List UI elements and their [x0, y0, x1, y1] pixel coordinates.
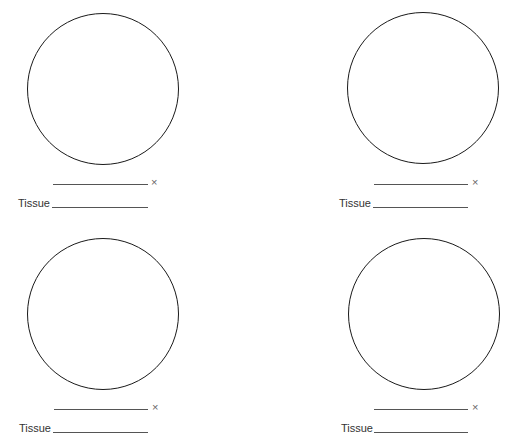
times-symbol: ×	[151, 177, 157, 188]
tissue-name-field[interactable]	[374, 432, 468, 433]
field-of-view-circle[interactable]	[27, 238, 179, 390]
magnification-field[interactable]	[374, 409, 468, 410]
field-of-view-circle[interactable]	[347, 12, 499, 164]
magnification-field[interactable]	[53, 184, 148, 185]
tissue-label: Tissue	[19, 423, 51, 434]
times-symbol: ×	[472, 177, 478, 188]
times-symbol: ×	[152, 402, 158, 413]
tissue-label: Tissue	[339, 198, 371, 209]
field-of-view-circle[interactable]	[27, 13, 179, 165]
tissue-label: Tissue	[341, 423, 373, 434]
times-symbol: ×	[472, 402, 478, 413]
magnification-field[interactable]	[54, 409, 148, 410]
tissue-label: Tissue	[18, 198, 50, 209]
tissue-name-field[interactable]	[52, 207, 148, 208]
tissue-name-field[interactable]	[373, 207, 468, 208]
field-of-view-circle[interactable]	[348, 238, 500, 390]
tissue-name-field[interactable]	[53, 432, 148, 433]
magnification-field[interactable]	[374, 184, 468, 185]
